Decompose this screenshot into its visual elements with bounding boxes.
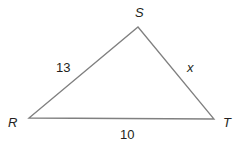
side-label-st: x [186,60,194,75]
side-label-rs: 13 [56,60,70,75]
triangle-svg: S R T 13 x 10 [0,0,243,142]
vertex-label-r: R [8,115,17,130]
side-label-rt: 10 [120,127,134,142]
vertex-label-t: T [223,115,232,130]
triangle-diagram: S R T 13 x 10 [0,0,243,142]
vertex-label-s: S [135,5,144,20]
